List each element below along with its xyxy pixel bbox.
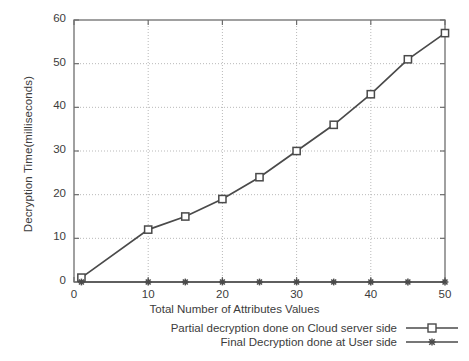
legend-key-asterisk — [404, 336, 460, 348]
decryption-time-line-chart: Decryption Time(milliseconds) 0102030405… — [0, 0, 469, 361]
y-tick-label-20: 20 — [38, 187, 66, 199]
y-tick-label-0: 0 — [38, 274, 66, 286]
y-tick-label-10: 10 — [38, 230, 66, 242]
x-tick-label-20: 20 — [207, 288, 237, 300]
y-tick-label-40: 40 — [38, 99, 66, 111]
y-tick-label-50: 50 — [38, 56, 66, 68]
y-tick-label-60: 60 — [38, 12, 66, 24]
x-tick-label-50: 50 — [430, 288, 460, 300]
legend-label-final-decryption: Final Decryption done at User side — [221, 336, 397, 348]
x-tick-label-0: 0 — [59, 288, 89, 300]
legend-key-open-square — [404, 322, 460, 334]
y-axis-title: Decryption Time(milliseconds) — [22, 44, 34, 264]
legend-label-partial-decryption: Partial decryption done on Cloud server … — [171, 322, 397, 334]
x-axis-title: Total Number of Attributes Values — [0, 303, 469, 315]
legend-item-partial-decryption: Partial decryption done on Cloud server … — [0, 321, 469, 335]
data-series-layer — [78, 30, 449, 286]
x-tick-label-40: 40 — [356, 288, 386, 300]
x-tick-label-10: 10 — [133, 288, 163, 300]
x-tick-label-30: 30 — [282, 288, 312, 300]
y-tick-label-30: 30 — [38, 143, 66, 155]
legend-item-final-decryption: Final Decryption done at User side — [0, 335, 469, 349]
